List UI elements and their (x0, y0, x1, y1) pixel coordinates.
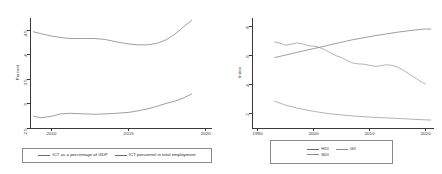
legend-entry-ict-gdp[interactable]: ICT as a percentage of GDP (38, 153, 107, 157)
legend-entry-hdi[interactable]: HDI (307, 147, 329, 151)
legend-swatch-line (307, 154, 319, 155)
figure-root: Percent 2.533.544.5 201020152020 ICT as … (0, 0, 442, 174)
legend-index: HDI GII SDI (270, 140, 393, 164)
legend-swatch-line (38, 155, 50, 156)
legend-label: ICT personnel in total employment (129, 153, 196, 157)
legend-entry-sdi[interactable]: SDI (307, 153, 328, 157)
legend-swatch-line (336, 149, 348, 150)
chart-panel-index: Index .2.4.6.8 1990200020102020 HDI GII (221, 0, 442, 174)
legend-label: ICT as a percentage of GDP (52, 153, 107, 157)
legend-entry-gii[interactable]: GII (336, 147, 356, 151)
legend-swatch-line (115, 155, 127, 156)
legend-entry-ict-personnel[interactable]: ICT personnel in total employment (115, 153, 196, 157)
series-line-gii (274, 42, 425, 84)
legend-label: HDI (321, 147, 329, 151)
series-line-sdi (274, 101, 431, 120)
legend-swatch-line (307, 149, 319, 150)
legend-label: SDI (321, 153, 328, 157)
legend-label: GII (350, 147, 356, 151)
legend-ict: ICT as a percentage of GDP ICT personnel… (22, 148, 212, 163)
series-line-ict-personnel-in-total-employment (33, 94, 192, 118)
series-line-ict-as-a-percentage-of-gdp (33, 20, 192, 45)
chart-panel-ict: Percent 2.533.544.5 201020152020 ICT as … (0, 0, 221, 174)
